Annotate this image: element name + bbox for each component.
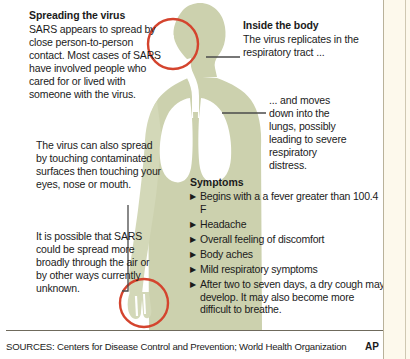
illustration-canvas: Spreading the virus SARS appears to spre…	[0, 0, 383, 330]
symptoms-heading: Symptoms	[190, 176, 383, 189]
symptom-item: ▶Body aches	[190, 248, 383, 261]
symptom-item: ▶Overall feeling of discomfort	[190, 233, 383, 246]
symptom-text: After two to seven days, a dry cough may…	[200, 278, 383, 315]
sars-infographic: Spreading the virus SARS appears to spre…	[0, 0, 410, 359]
symptom-text: Mild respiratory symptoms	[200, 263, 318, 275]
ap-credit: AP	[365, 341, 383, 352]
touching-surfaces-block: The virus can also spread by touching co…	[36, 139, 166, 191]
spreading-body: SARS appears to spread by close person-t…	[29, 23, 161, 102]
airborne-body: It is possible that SARS could be spread…	[36, 230, 156, 295]
airborne-spread-block: It is possible that SARS could be spread…	[36, 230, 156, 295]
symptom-item: ▶Begins with a a fever greater than 100.…	[190, 190, 383, 215]
bullet-triangle-icon: ▶	[190, 264, 196, 275]
inside-body: The virus replicates in the respiratory …	[243, 33, 381, 59]
inside-heading: Inside the body	[243, 19, 381, 32]
bullet-triangle-icon: ▶	[190, 234, 196, 245]
symptom-item: ▶Headache	[190, 218, 383, 231]
footer-divider	[6, 330, 383, 331]
bullet-triangle-icon: ▶	[190, 219, 196, 230]
symptom-text: Body aches	[200, 248, 253, 260]
symptoms-list: ▶Begins with a a fever greater than 100.…	[190, 190, 383, 316]
vertical-edge-rule	[405, 0, 406, 359]
bullet-triangle-icon: ▶	[190, 191, 196, 202]
inside-the-body-block: Inside the body The virus replicates in …	[243, 19, 381, 59]
bullet-triangle-icon: ▶	[190, 279, 196, 290]
symptom-item: ▶Mild respiratory symptoms	[190, 263, 383, 276]
symptoms-block: Symptoms ▶Begins with a a fever greater …	[190, 176, 383, 318]
symptom-item: ▶After two to seven days, a dry cough ma…	[190, 278, 383, 316]
spreading-the-virus-block: Spreading the virus SARS appears to spre…	[29, 9, 161, 102]
footer: SOURCES: Centers for Disease Control and…	[6, 336, 383, 356]
touching-body: The virus can also spread by touching co…	[36, 139, 166, 191]
sources-text: SOURCES: Centers for Disease Control and…	[6, 341, 346, 352]
lungs-body: ... and moves down into the lungs, possi…	[269, 94, 349, 173]
symptom-text: Overall feeling of discomfort	[200, 233, 324, 245]
vertical-divider-rule	[383, 0, 384, 359]
bullet-triangle-icon: ▶	[190, 249, 196, 260]
symptom-text: Begins with a a fever greater than 100.4…	[200, 190, 378, 215]
spreading-heading: Spreading the virus	[29, 9, 161, 22]
symptom-text: Headache	[200, 218, 246, 230]
lungs-description-block: ... and moves down into the lungs, possi…	[269, 94, 349, 173]
